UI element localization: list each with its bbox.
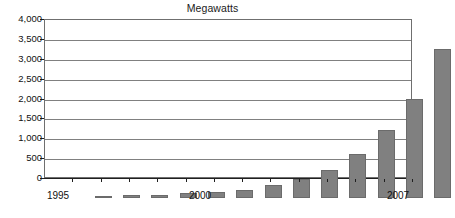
y-tick-label-1000: 1,000 bbox=[18, 133, 42, 143]
y-tick-label-2500: 2,500 bbox=[18, 74, 42, 84]
y-tick-label-1500: 1,500 bbox=[18, 113, 42, 123]
x-tick-mark-1999 bbox=[186, 179, 187, 182]
x-tick-mark-2005 bbox=[355, 179, 356, 182]
x-tick-label-2007: 2007 bbox=[387, 190, 409, 201]
x-tick-label-1995: 1995 bbox=[47, 190, 69, 201]
x-tick-mark-2003 bbox=[299, 179, 300, 182]
x-tick-mark-2001 bbox=[242, 179, 243, 182]
y-tick-label-500: 500 bbox=[26, 153, 42, 163]
x-tick-mark-1997 bbox=[129, 179, 130, 182]
y-tick-label-3500: 3,500 bbox=[18, 34, 42, 44]
x-tick-mark-1996 bbox=[101, 179, 102, 182]
x-tick-mark-1995 bbox=[72, 179, 73, 182]
y-tick-label-3000: 3,000 bbox=[18, 54, 42, 64]
y-tick-label-4000: 4,000 bbox=[18, 14, 42, 24]
x-tick-mark-2002 bbox=[270, 179, 271, 182]
bar-2007 bbox=[434, 49, 451, 198]
x-tick-mark-2007 bbox=[412, 179, 413, 182]
x-tick-mark-2004 bbox=[327, 179, 328, 182]
y-tick-label-2000: 2,000 bbox=[18, 94, 42, 104]
y-tick-label-0: 0 bbox=[37, 173, 42, 183]
x-tick-label-2000: 2000 bbox=[189, 190, 211, 201]
x-tick-mark-1998 bbox=[157, 179, 158, 182]
x-tick-mark-2006 bbox=[384, 179, 385, 182]
x-tick-mark-2000 bbox=[214, 179, 215, 182]
